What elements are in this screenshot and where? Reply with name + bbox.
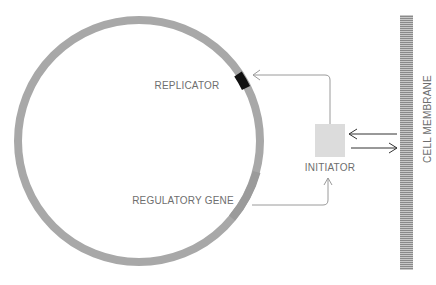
replicator-label: REPLICATOR [155, 80, 220, 91]
cell-membrane [400, 15, 413, 270]
chromosome-circle [18, 20, 260, 262]
regulatory-gene-segment [232, 172, 257, 218]
replicon-diagram: REPLICATOR REGULATORY GENE INITIATOR CEL… [0, 0, 436, 285]
regulatory-gene-label: REGULATORY GENE [132, 195, 234, 206]
initiator-box [315, 124, 345, 157]
regulatory-to-initiator-arrow [252, 178, 328, 205]
initiator-to-replicator-arrow [253, 75, 330, 124]
cell-membrane-label: CELL MEMBRANE [422, 75, 433, 163]
initiator-label: INITIATOR [305, 162, 355, 173]
